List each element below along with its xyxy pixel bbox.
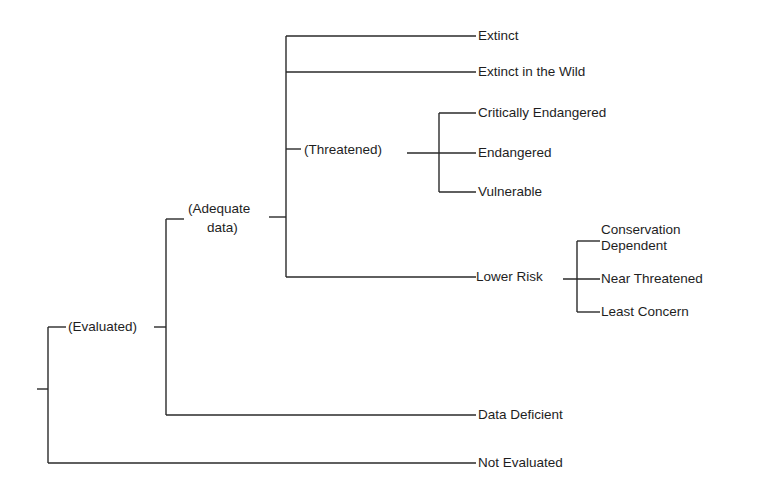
node-least-concern: Least Concern bbox=[601, 304, 689, 320]
node-vulnerable: Vulnerable bbox=[478, 184, 542, 200]
node-lower-risk: Lower Risk bbox=[476, 269, 543, 285]
node-conservation-dependent-line1: Conservation bbox=[601, 222, 681, 238]
node-threatened: (Threatened) bbox=[304, 142, 382, 158]
node-evaluated: (Evaluated) bbox=[68, 319, 137, 335]
node-adequate-data-line1: (Adequate bbox=[188, 201, 250, 217]
node-extinct: Extinct bbox=[478, 28, 519, 44]
node-data-deficient: Data Deficient bbox=[478, 407, 563, 423]
node-adequate-data-line2: data) bbox=[207, 220, 238, 236]
node-extinct-in-the-wild: Extinct in the Wild bbox=[478, 64, 585, 80]
node-conservation-dependent-line2: Dependent bbox=[601, 238, 667, 254]
node-near-threatened: Near Threatened bbox=[601, 271, 703, 287]
node-endangered: Endangered bbox=[478, 145, 552, 161]
node-critically-endangered: Critically Endangered bbox=[478, 105, 606, 121]
node-not-evaluated: Not Evaluated bbox=[478, 455, 563, 471]
